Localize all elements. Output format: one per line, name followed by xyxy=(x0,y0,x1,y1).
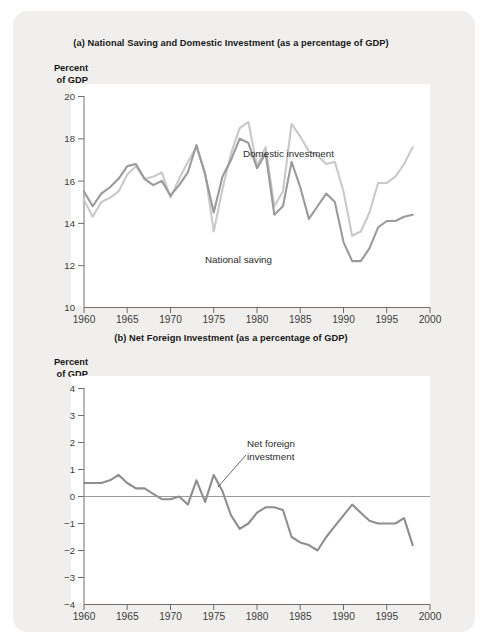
chart-b-axis-caption-line1: Percent xyxy=(18,357,88,369)
chart-a-label-national-saving: National saving xyxy=(205,249,272,267)
chart-a-label-domestic-investment-text: Domestic investment xyxy=(243,148,334,159)
chart-a-label-national-saving-text: National saving xyxy=(205,254,272,265)
chart-b-annotation-line2: investment xyxy=(247,450,295,463)
chart-a-label-domestic-investment: Domestic investment xyxy=(243,143,334,161)
chart-a-axis-caption: Percent of GDP xyxy=(18,63,88,86)
chart-b-annotation-line1: Net foreign xyxy=(247,437,295,450)
chart-a-plot-area xyxy=(71,84,430,307)
chart-a-title: (a) National Saving and Domestic Investm… xyxy=(0,38,462,48)
chart-b-plot-area xyxy=(71,376,430,604)
chart-b-title: (b) Net Foreign Investment (as a percent… xyxy=(0,333,462,343)
chart-b-annotation: Net foreign investment xyxy=(247,437,295,463)
figure-page: (a) National Saving and Domestic Investm… xyxy=(0,0,488,643)
chart-a-axis-caption-line1: Percent xyxy=(18,63,88,75)
